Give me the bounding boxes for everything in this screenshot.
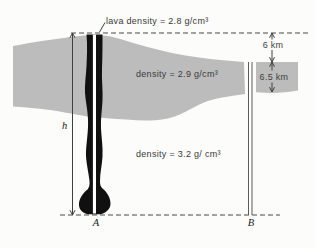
six-point-five-km-dimension-label: 6.5 km (260, 72, 289, 82)
lower-layer-density-label: density = 3.2 g/ cm³ (136, 150, 221, 159)
lava-density-label: lava density = 2.8 g/cm³ (106, 17, 209, 26)
six-km-dimension-label: 6 km (263, 40, 284, 50)
conduit-center-stripe (93, 35, 96, 214)
column-b-lines (249, 62, 253, 215)
diagram-canvas (0, 0, 315, 248)
upper-layer-density-label: density = 2.9 g/cm³ (136, 70, 218, 79)
point-b-label: B (248, 217, 254, 228)
isostasy-volcano-diagram: lava density = 2.8 g/cm³ density = 2.9 g… (0, 0, 315, 248)
point-a-label: A (93, 217, 99, 228)
height-variable-label: h (62, 120, 67, 131)
lava-label-leader-line (100, 23, 106, 33)
